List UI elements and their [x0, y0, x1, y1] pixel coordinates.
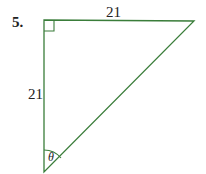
- left-side-label: 21: [28, 86, 43, 103]
- angle-theta-label: θ: [48, 150, 54, 165]
- top-side-label: 21: [106, 4, 121, 21]
- right-angle-marker-icon: [44, 20, 54, 31]
- triangle: [44, 20, 194, 172]
